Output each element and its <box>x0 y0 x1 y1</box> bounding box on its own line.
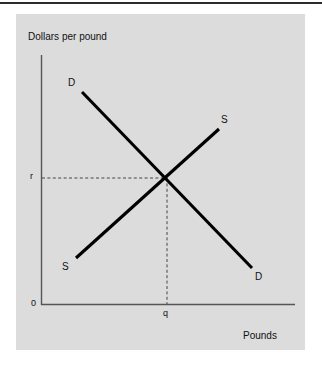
origin-label: 0 <box>31 298 36 309</box>
supply-curve <box>76 129 219 258</box>
demand-curve-label-top: D <box>68 77 75 88</box>
demand-curve-label-bottom: D <box>255 271 262 282</box>
equilibrium-price-label: r <box>30 171 33 182</box>
plot-svg <box>0 0 322 365</box>
supply-curve-label-bottom: S <box>62 261 69 272</box>
x-axis-label: Pounds <box>243 330 277 341</box>
equilibrium-quantity-label: q <box>163 308 168 319</box>
supply-demand-figure: Dollars per pound Pounds 0 r q D S S D <box>0 0 322 365</box>
supply-curve-label-top: S <box>221 114 228 125</box>
y-axis-label: Dollars per pound <box>28 31 107 42</box>
